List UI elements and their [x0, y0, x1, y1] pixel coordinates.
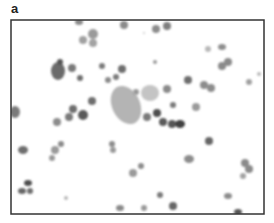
cell	[205, 137, 213, 145]
cell	[27, 188, 33, 194]
cell	[105, 77, 111, 83]
cell	[245, 165, 253, 173]
cell	[68, 64, 76, 72]
cell	[64, 196, 68, 200]
cell	[218, 44, 226, 50]
cell	[200, 81, 208, 89]
micrograph	[0, 0, 274, 223]
cell	[99, 63, 105, 69]
cell	[69, 105, 77, 113]
cell	[51, 62, 65, 80]
cell	[118, 65, 126, 73]
cell	[153, 109, 161, 117]
cell	[224, 193, 232, 199]
cell	[170, 102, 176, 108]
cell	[153, 60, 157, 64]
cell	[157, 192, 163, 198]
cell	[163, 22, 171, 30]
cell	[113, 74, 119, 80]
cell	[143, 113, 151, 121]
cell	[143, 32, 145, 34]
cell	[184, 76, 192, 84]
cell	[169, 202, 177, 210]
cell	[175, 120, 185, 128]
cell	[18, 146, 28, 154]
cell	[53, 118, 61, 126]
cell	[133, 89, 139, 95]
cell	[58, 141, 64, 147]
cell	[224, 58, 232, 66]
cell	[159, 118, 167, 126]
cell	[120, 21, 128, 29]
cell	[207, 84, 215, 92]
cell	[257, 72, 261, 76]
cell	[24, 180, 32, 186]
cell	[77, 75, 83, 81]
cell	[152, 25, 160, 33]
cell	[51, 146, 59, 154]
cell	[88, 97, 96, 105]
cell	[116, 205, 124, 211]
cell	[88, 29, 98, 39]
cell	[79, 36, 87, 44]
pale-cluster	[141, 85, 159, 101]
cell	[18, 188, 26, 194]
cell	[246, 79, 252, 85]
cell	[240, 173, 246, 179]
cell	[49, 155, 55, 161]
cell	[110, 147, 116, 153]
cell	[168, 120, 176, 128]
cell	[192, 103, 200, 111]
cell	[109, 141, 115, 147]
cell	[141, 205, 147, 211]
cell	[89, 39, 97, 47]
cell	[57, 59, 63, 65]
cell	[65, 113, 73, 121]
cell	[163, 85, 171, 93]
cell	[205, 46, 211, 52]
cell	[138, 163, 144, 169]
cell	[78, 110, 88, 120]
cell	[184, 155, 194, 163]
cell	[129, 169, 137, 177]
